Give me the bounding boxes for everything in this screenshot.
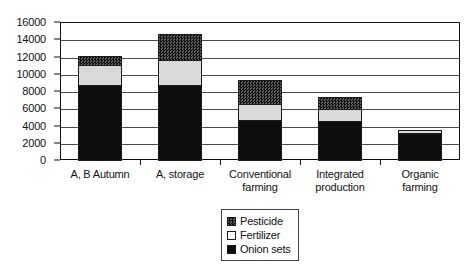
- bar-segment-fertilizer: [78, 65, 122, 87]
- x-axis-label-line: Integrated: [294, 168, 386, 181]
- legend-label: Onion sets: [240, 244, 291, 255]
- bar-segment-onion-sets: [318, 121, 362, 161]
- x-axis-label-line: A, B Autumn: [54, 168, 146, 181]
- x-axis-labels: A, B AutumnA, storageConventionalfarming…: [60, 168, 460, 200]
- legend-item-pesticide: Pesticide: [227, 214, 291, 228]
- x-axis-label-line: farming: [374, 181, 466, 194]
- bar-segment-fertilizer: [238, 104, 282, 121]
- chart-legend: PesticideFertilizerOnion sets: [221, 209, 299, 261]
- x-axis-label-line: A, storage: [134, 168, 226, 181]
- x-tick-mark: [300, 160, 301, 165]
- x-axis-label-line: Organic: [374, 168, 466, 181]
- y-tick-label: 8000: [22, 86, 46, 97]
- x-axis-label-1: A, B Autumn: [54, 168, 146, 181]
- y-tick-label: 16000: [16, 17, 46, 28]
- pesticide-swatch: [227, 217, 236, 226]
- onion-sets-swatch: [227, 245, 236, 254]
- legend-label: Pesticide: [240, 216, 283, 227]
- bar-segment-fertilizer: [158, 60, 202, 86]
- bar-segment-pesticide: [158, 34, 202, 62]
- bar-segment-pesticide: [238, 80, 282, 105]
- bar-5: [398, 130, 442, 160]
- legend-item-fertilizer: Fertilizer: [227, 228, 291, 242]
- y-tick-label: 10000: [16, 68, 46, 79]
- legend-item-onion-sets: Onion sets: [227, 242, 291, 256]
- x-axis-label-3: Conventionalfarming: [214, 168, 306, 194]
- x-tick-mark: [140, 160, 141, 165]
- x-axis-label-line: Conventional: [214, 168, 306, 181]
- legend-label: Fertilizer: [240, 230, 280, 241]
- bar-1: [78, 56, 122, 160]
- bar-chart: 0200040006000800010000120001400016000 A,…: [0, 0, 474, 271]
- y-tick-label: 6000: [22, 103, 46, 114]
- bar-4: [318, 97, 362, 160]
- y-tick-label: 14000: [16, 34, 46, 45]
- fertilizer-swatch: [227, 231, 236, 240]
- x-axis-label-5: Organicfarming: [374, 168, 466, 194]
- x-tick-mark: [380, 160, 381, 165]
- bar-segment-onion-sets: [158, 85, 202, 161]
- x-axis-label-4: Integratedproduction: [294, 168, 386, 194]
- bar-segment-onion-sets: [78, 85, 122, 161]
- y-tick-label: 12000: [16, 51, 46, 62]
- y-tick-label: 2000: [22, 137, 46, 148]
- bar-segment-onion-sets: [238, 120, 282, 161]
- x-axis-ticks: [60, 160, 460, 167]
- bar-3: [238, 80, 282, 160]
- bar-segment-onion-sets: [398, 133, 442, 161]
- x-axis-label-line: farming: [214, 181, 306, 194]
- y-tick-label: 4000: [22, 120, 46, 131]
- bar-2: [158, 34, 202, 160]
- y-tick-label: 0: [40, 155, 46, 166]
- bars-layer: [60, 22, 460, 160]
- y-axis: 0200040006000800010000120001400016000: [0, 0, 56, 200]
- x-axis-label-2: A, storage: [134, 168, 226, 181]
- x-axis-label-line: production: [294, 181, 386, 194]
- x-tick-mark: [220, 160, 221, 165]
